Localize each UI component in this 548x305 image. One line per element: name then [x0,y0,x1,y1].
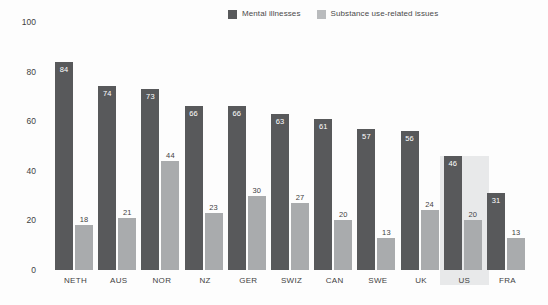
y-axis-tick-40: 40 [27,166,36,175]
bar-value-label: 27 [291,193,309,202]
bar-fill [464,220,482,270]
y-axis-tick-100: 100 [22,18,36,27]
bar-swiz-mental-illnesses: 63 [271,114,289,270]
bar-neth-substance-use-related-issues: 18 [75,225,93,270]
x-axis-label-nor: NOR [141,276,182,286]
bar-value-label: 31 [487,196,505,205]
bar-value-label: 23 [205,203,223,212]
bar-fill [205,213,223,270]
bar-fill [98,86,116,270]
bar-nz-mental-illnesses: 66 [185,106,203,270]
y-axis: 100806040200 [0,0,48,305]
bar-fra-substance-use-related-issues: 13 [507,238,525,270]
bar-fill [248,196,266,270]
bar-fill [291,203,309,270]
bar-value-label: 44 [161,151,179,160]
bar-fill [421,210,439,270]
x-axis-label-ger: GER [228,276,269,286]
bar-value-label: 24 [421,200,439,209]
bar-us-substance-use-related-issues: 20 [464,220,482,270]
bar-fill [444,156,462,270]
bar-fill [118,218,136,270]
bar-value-label: 21 [118,208,136,217]
bar-neth-mental-illnesses: 84 [55,62,73,270]
bar-ger-mental-illnesses: 66 [228,106,246,270]
bar-can-mental-illnesses: 61 [314,119,332,270]
x-axis-label-uk: UK [401,276,442,286]
bar-fill [271,114,289,270]
bar-nor-substance-use-related-issues: 44 [161,161,179,270]
bar-value-label: 13 [377,228,395,237]
bar-fill [334,220,352,270]
plot-area: 8418NETH7421AUS7344NOR6623NZ6630GER6327S… [48,0,548,305]
x-axis-label-fra: FRA [487,276,528,286]
bar-chart: Mental illnesses Substance use-related i… [0,0,548,305]
x-axis-label-us: US [444,276,485,286]
x-axis-label-neth: NETH [55,276,96,286]
bar-group-can: 6120CAN [314,0,355,305]
bar-fill [314,119,332,270]
bar-uk-mental-illnesses: 56 [401,131,419,270]
bar-group-swe: 5713SWE [357,0,398,305]
x-axis-label-swiz: SWIZ [271,276,312,286]
bar-value-label: 20 [464,210,482,219]
bar-nz-substance-use-related-issues: 23 [205,213,223,270]
bar-swe-substance-use-related-issues: 13 [377,238,395,270]
y-axis-tick-80: 80 [27,67,36,76]
bar-fill [507,238,525,270]
bar-value-label: 63 [271,117,289,126]
bar-value-label: 13 [507,228,525,237]
bar-aus-substance-use-related-issues: 21 [118,218,136,270]
bar-swe-mental-illnesses: 57 [357,129,375,270]
bar-fill [161,161,179,270]
bar-fill [185,106,203,270]
bar-value-label: 46 [444,159,462,168]
x-axis-label-can: CAN [314,276,355,286]
bar-value-label: 61 [314,122,332,131]
bar-fill [141,89,159,270]
y-axis-tick-60: 60 [27,117,36,126]
bar-can-substance-use-related-issues: 20 [334,220,352,270]
bar-fra-mental-illnesses: 31 [487,193,505,270]
bar-group-ger: 6630GER [228,0,269,305]
bar-group-swiz: 6327SWIZ [271,0,312,305]
bar-fill [228,106,246,270]
bar-us-mental-illnesses: 46 [444,156,462,270]
bar-group-fra: 3113FRA [487,0,528,305]
bar-group-us: 4620US [444,0,485,305]
y-axis-tick-20: 20 [27,216,36,225]
y-axis-tick-0: 0 [31,266,36,275]
bar-value-label: 20 [334,210,352,219]
x-axis-label-swe: SWE [357,276,398,286]
bar-value-label: 66 [185,109,203,118]
x-axis-label-nz: NZ [185,276,226,286]
bar-group-nor: 7344NOR [141,0,182,305]
bar-group-uk: 5624UK [401,0,442,305]
bar-ger-substance-use-related-issues: 30 [248,196,266,270]
bar-fill [401,131,419,270]
bar-swiz-substance-use-related-issues: 27 [291,203,309,270]
bar-value-label: 30 [248,186,266,195]
bar-group-neth: 8418NETH [55,0,96,305]
bar-fill [55,62,73,270]
bar-group-nz: 6623NZ [185,0,226,305]
bar-fill [75,225,93,270]
bar-fill [377,238,395,270]
bar-uk-substance-use-related-issues: 24 [421,210,439,270]
bar-nor-mental-illnesses: 73 [141,89,159,270]
bar-value-label: 73 [141,92,159,101]
bar-value-label: 66 [228,109,246,118]
bar-value-label: 18 [75,215,93,224]
bar-value-label: 57 [357,132,375,141]
bar-aus-mental-illnesses: 74 [98,86,116,270]
bar-value-label: 56 [401,134,419,143]
bar-fill [357,129,375,270]
bar-group-aus: 7421AUS [98,0,139,305]
x-axis-label-aus: AUS [98,276,139,286]
bar-value-label: 84 [55,65,73,74]
bar-value-label: 74 [98,89,116,98]
